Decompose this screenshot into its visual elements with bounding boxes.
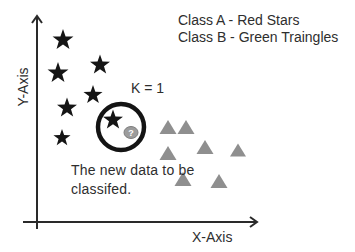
- y-axis-label: Y-Axis: [15, 63, 31, 111]
- class-a-star-marker: [53, 129, 70, 145]
- new-data-annotation-line1: The new data to be: [71, 161, 194, 180]
- class-b-triangle-marker: [197, 140, 214, 154]
- class-b-triangle-marker: [230, 144, 246, 157]
- class-b-triangle-marker: [178, 120, 195, 134]
- class-a-star-marker: [57, 98, 77, 117]
- legend-class-b: Class B - Green Traingles: [178, 29, 338, 46]
- class-a-star-marker: [83, 85, 102, 103]
- class-a-star-marker: [48, 62, 69, 82]
- class-b-triangle-marker: [160, 120, 177, 134]
- x-axis-label: X-Axis: [192, 229, 232, 246]
- class-b-triangle-marker: [211, 174, 228, 188]
- class-a-star-marker: [90, 55, 110, 74]
- new-data-annotation: The new data to be classifed.: [71, 161, 194, 199]
- class-a-star-marker: [53, 29, 74, 49]
- question-mark-icon: ?: [128, 128, 134, 138]
- k1-neighborhood-circle: [98, 104, 144, 150]
- legend: Class A - Red Stars Class B - Green Trai…: [178, 12, 338, 46]
- k-value-label: K = 1: [131, 80, 164, 97]
- legend-class-a: Class A - Red Stars: [178, 12, 338, 29]
- class-b-triangle-marker: [160, 146, 177, 160]
- knn-classification-diagram: ? Class A - Red Stars Class B - Green Tr…: [0, 0, 355, 252]
- new-data-annotation-line2: classifed.: [71, 180, 194, 199]
